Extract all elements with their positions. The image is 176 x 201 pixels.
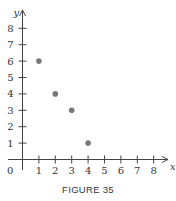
x-tick-label: 2 [52, 165, 58, 176]
x-tick-label: 5 [101, 165, 107, 176]
y-tick-label: 1 [7, 138, 13, 149]
x-tick-label: 8 [151, 165, 157, 176]
x-tick-label: 4 [85, 165, 91, 176]
x-axis-label: x [170, 161, 176, 172]
x-tick-label: 3 [69, 165, 75, 176]
y-tick-label: 4 [7, 88, 13, 99]
figure-caption: FIGURE 35 [0, 184, 176, 195]
y-tick-label: 8 [7, 23, 13, 34]
y-tick-label: 2 [7, 121, 13, 132]
origin-label: 0 [7, 165, 13, 176]
y-axis-label: y [13, 7, 20, 18]
data-point [36, 58, 42, 64]
data-point [85, 140, 91, 146]
x-tick-label: 7 [134, 165, 140, 176]
y-tick-label: 3 [7, 105, 13, 116]
x-tick-label: 6 [118, 165, 124, 176]
y-tick-label: 6 [7, 56, 13, 67]
y-tick-label: 5 [7, 72, 13, 83]
data-point [69, 108, 75, 114]
data-point [53, 91, 59, 97]
y-tick-label: 7 [7, 39, 13, 50]
scatter-chart: xy01234567812345678 [0, 0, 176, 201]
x-tick-label: 1 [36, 165, 42, 176]
